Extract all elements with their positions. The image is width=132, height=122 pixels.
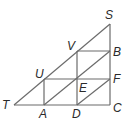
point-label-v: V: [67, 39, 76, 53]
point-label-f: F: [113, 72, 121, 86]
point-label-t: T: [2, 98, 11, 112]
point-label-d: D: [72, 107, 81, 121]
segments-group: [14, 24, 110, 105]
geometry-diagram: TADCUEFVBS: [0, 0, 132, 122]
point-label-e: E: [79, 81, 88, 95]
point-label-a: A: [38, 107, 47, 121]
segment-ts: [14, 24, 110, 105]
point-label-b: B: [113, 45, 121, 59]
point-label-s: S: [105, 8, 113, 22]
point-label-u: U: [35, 67, 44, 81]
point-label-c: C: [113, 101, 122, 115]
